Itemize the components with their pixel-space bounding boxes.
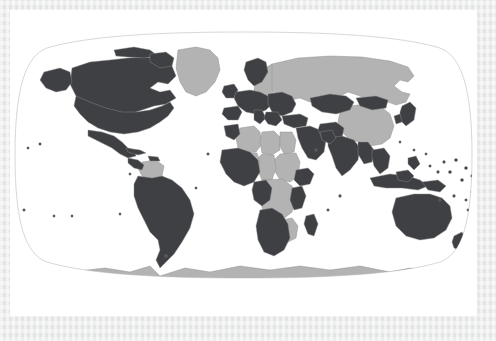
region-egypt[interactable] [280, 132, 296, 154]
figure-panel [10, 10, 477, 316]
map-viewport[interactable] [10, 10, 477, 316]
region-antarctica[interactable] [30, 266, 470, 309]
region-libya[interactable] [260, 131, 280, 155]
world-choropleth-map[interactable] [10, 10, 477, 316]
screenshot-root [0, 0, 496, 341]
